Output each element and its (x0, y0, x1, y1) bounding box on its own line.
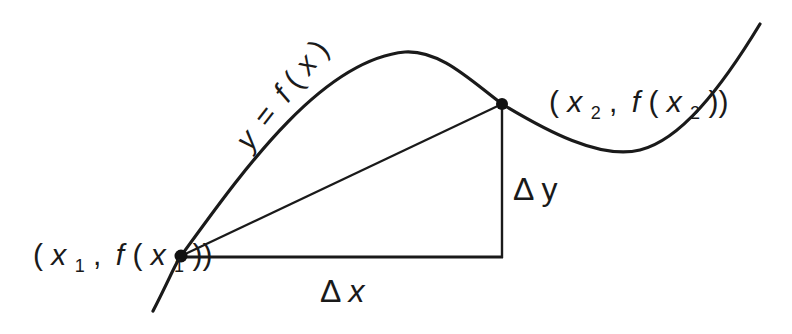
p1-close-parens: )) (192, 238, 212, 271)
p1-inner-open-paren: ( (132, 238, 142, 271)
p2-inner-open-paren: ( (648, 85, 658, 118)
p1-open-paren: ( (33, 238, 43, 271)
secant-diagram: y = f ( x ) ( x 1 , f ( x 1 )) ( x 2 , f… (0, 0, 792, 334)
point-2-label: ( x 2 , f ( x 2 )) (549, 85, 728, 125)
delta-x-symbol: Δ (320, 273, 341, 309)
p2-x: x (565, 85, 583, 118)
point-2-marker (496, 98, 508, 110)
delta-x-var: x (347, 273, 366, 309)
function-curve (153, 24, 760, 311)
p2-open-paren: ( (549, 85, 559, 118)
delta-y-label: Δ y (513, 171, 558, 207)
p1-comma: , (93, 238, 101, 271)
p2-f: f (632, 85, 643, 118)
p1-inner-x: x (149, 238, 167, 271)
p1-f: f (116, 238, 127, 271)
p1-x: x (49, 238, 67, 271)
p2-comma: , (609, 85, 617, 118)
point-1-label: ( x 1 , f ( x 1 )) (33, 238, 212, 278)
p1-x-subscript: 1 (75, 256, 85, 276)
p1-inner-x-subscript: 1 (174, 256, 184, 276)
p2-inner-x-subscript: 2 (690, 103, 700, 123)
delta-y-symbol: Δ (513, 171, 534, 207)
p2-close-parens: )) (708, 85, 728, 118)
delta-x-label: Δ x (320, 273, 366, 309)
p2-x-subscript: 2 (591, 103, 601, 123)
delta-y-var: y (542, 171, 558, 207)
curve-label-equals: = (247, 98, 284, 132)
p2-inner-x: x (665, 85, 683, 118)
secant-line (181, 104, 502, 256)
